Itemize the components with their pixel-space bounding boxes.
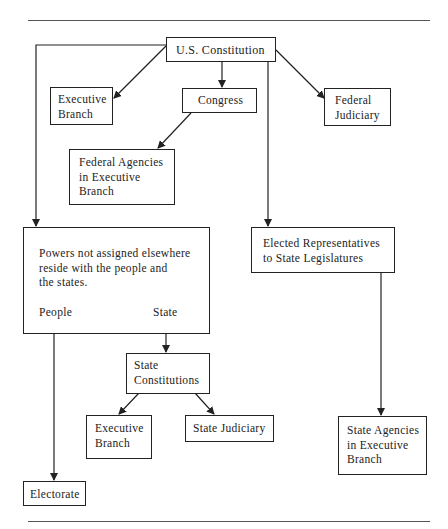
node-elected-representatives: Elected Representatives to State Legisla… xyxy=(251,227,395,273)
node-state-judiciary: State Judiciary xyxy=(185,415,274,442)
node-label: U.S. Constitution xyxy=(176,43,275,58)
node-label: Federal Judiciary xyxy=(335,93,390,122)
node-federal-agencies: Federal Agencies in Executive Branch xyxy=(69,149,175,205)
node-label: Elected Representatives to State Legisla… xyxy=(263,236,394,265)
node-label: Powers not assigned elsewhere reside wit… xyxy=(39,246,190,290)
node-federal-judiciary: Federal Judiciary xyxy=(324,88,391,126)
edge-constitution-fed-judiciary xyxy=(276,50,324,98)
node-state-constitutions: State Constitutions xyxy=(126,353,210,394)
node-label: Electorate xyxy=(30,487,85,502)
node-label: Executive Branch xyxy=(58,92,112,121)
edge-constitution-fed-executive xyxy=(114,46,166,98)
edge-congress-fed-agencies xyxy=(158,113,191,148)
node-electorate: Electorate xyxy=(23,481,86,506)
node-state-agencies: State Agencies in Executive Branch xyxy=(338,416,427,475)
node-us-constitution: U.S. Constitution xyxy=(166,37,276,62)
node-label: State Constitutions xyxy=(134,358,209,387)
node-label: Congress xyxy=(198,93,256,108)
edge-state-constitutions-state-judiciary xyxy=(195,393,214,414)
edge-state-constitutions-state-executive xyxy=(119,393,139,414)
node-label: Executive Branch xyxy=(95,421,151,450)
node-state-executive-branch: Executive Branch xyxy=(86,415,152,459)
node-congress: Congress xyxy=(182,88,257,113)
node-label: State Judiciary xyxy=(193,421,273,436)
people-label: People xyxy=(39,305,72,320)
node-label: Federal Agencies in Executive Branch xyxy=(79,155,174,199)
state-label: State xyxy=(153,305,178,320)
node-label: State Agencies in Executive Branch xyxy=(347,423,426,467)
node-federal-executive-branch: Executive Branch xyxy=(50,87,113,125)
node-reserved-powers: Powers not assigned elsewhere reside wit… xyxy=(23,227,210,334)
